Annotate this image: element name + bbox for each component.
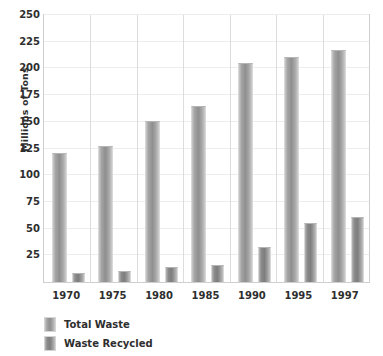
y-axis-tick-labels: 250225200175150125100755025 bbox=[0, 0, 40, 356]
bar-waste-recycled bbox=[72, 273, 85, 282]
bar-total-waste bbox=[98, 146, 113, 282]
bar-waste-recycled bbox=[211, 265, 224, 282]
x-axis-tick-label: 1980 bbox=[136, 290, 182, 301]
waste-recycled-swatch bbox=[44, 336, 56, 351]
legend-label-total-waste: Total Waste bbox=[64, 319, 130, 330]
legend-item-total-waste: Total Waste bbox=[44, 316, 153, 333]
bar-waste-recycled bbox=[351, 217, 364, 282]
y-axis-tick-label: 25 bbox=[0, 250, 40, 260]
y-axis-tick-label: 200 bbox=[0, 63, 40, 73]
legend-label-waste-recycled: Waste Recycled bbox=[64, 338, 153, 349]
x-axis-tick-label: 1995 bbox=[275, 290, 321, 301]
bar-group bbox=[323, 15, 369, 282]
bar-waste-recycled bbox=[118, 271, 131, 282]
y-axis-tick-label: 100 bbox=[0, 170, 40, 180]
x-axis-tick-label: 1985 bbox=[183, 290, 229, 301]
bar-waste-recycled bbox=[304, 223, 317, 282]
bar-total-waste bbox=[284, 57, 299, 282]
x-axis-tick-label: 1997 bbox=[322, 290, 368, 301]
bar-group bbox=[276, 15, 322, 282]
total-waste-swatch bbox=[44, 317, 56, 332]
plot-area bbox=[43, 14, 370, 283]
y-axis-tick-label: 125 bbox=[0, 144, 40, 154]
bar-group bbox=[183, 15, 229, 282]
bar-group bbox=[44, 15, 90, 282]
chart-legend: Total Waste Waste Recycled bbox=[44, 316, 153, 354]
legend-item-waste-recycled: Waste Recycled bbox=[44, 335, 153, 352]
x-axis-tick-label: 1975 bbox=[90, 290, 136, 301]
bar-waste-recycled bbox=[258, 247, 271, 282]
bar-group bbox=[137, 15, 183, 282]
bar-total-waste bbox=[331, 50, 346, 282]
bar-total-waste bbox=[191, 106, 206, 282]
y-axis-tick-label: 50 bbox=[0, 224, 40, 234]
bar-total-waste bbox=[145, 121, 160, 282]
bar-group bbox=[90, 15, 136, 282]
bar-chart: Millions of Tons 25022520017515012510075… bbox=[0, 0, 383, 356]
y-axis-tick-label: 250 bbox=[0, 10, 40, 20]
x-axis-tick-label: 1970 bbox=[43, 290, 89, 301]
x-axis-tick-label: 1990 bbox=[229, 290, 275, 301]
y-axis-tick-label: 150 bbox=[0, 117, 40, 127]
bar-waste-recycled bbox=[165, 267, 178, 282]
x-axis-tick-labels: 1970197519801985199019951997 bbox=[43, 290, 370, 306]
bar-total-waste bbox=[52, 153, 67, 282]
bar-group bbox=[230, 15, 276, 282]
bar-total-waste bbox=[238, 63, 253, 282]
y-axis-tick-label: 225 bbox=[0, 37, 40, 47]
y-axis-tick-label: 175 bbox=[0, 90, 40, 100]
y-axis-tick-label: 75 bbox=[0, 197, 40, 207]
